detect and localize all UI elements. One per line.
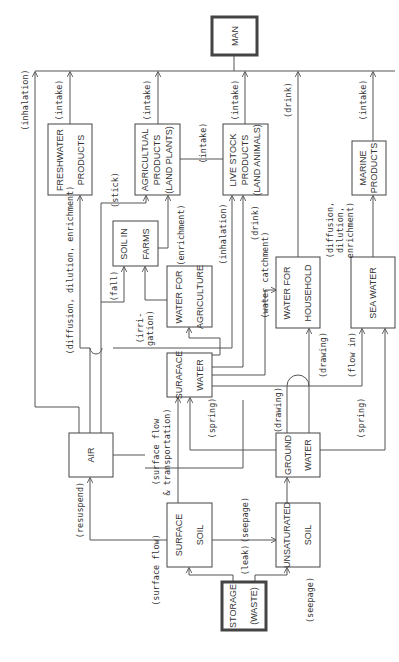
node-label: PRODUCTS xyxy=(240,135,250,186)
edge-label: (water catchment) xyxy=(260,232,270,319)
edge-label: gation) xyxy=(145,310,155,346)
node-ground-water: GROUND WATER xyxy=(276,433,320,477)
node-label: UNSATURATED xyxy=(282,501,292,568)
edge-label: (intake) xyxy=(54,80,64,121)
node-storage-waste: STORAGE (WASTE) xyxy=(222,582,266,630)
edge-label: (enrichment) xyxy=(176,204,186,265)
node-live-stock-products: LIVE STOCK PRODUCTS (LAND ANIMALS) xyxy=(223,124,268,196)
edge-label: (flow in) xyxy=(347,332,357,378)
node-label: MARINE xyxy=(358,150,368,185)
node-man: MAN xyxy=(212,17,257,55)
node-label: SOIL xyxy=(303,525,313,546)
edge-ground-spring-surface xyxy=(190,398,276,450)
edge-label: (drawing) xyxy=(273,387,283,433)
edge-label: (seepage) xyxy=(305,577,315,623)
node-label: HOUSEHOLD xyxy=(303,264,313,322)
node-water-for-household: WATER FOR HOUSEHOLD xyxy=(276,257,320,328)
node-label: AGRICULTUAL xyxy=(140,129,150,191)
edge-label: (surface flow) xyxy=(151,534,161,606)
edge-label: (spring) xyxy=(356,398,366,439)
node-label: PRODUCTS xyxy=(76,135,86,186)
node-label: STORAGE xyxy=(228,584,238,628)
node-air: AIR xyxy=(69,433,113,477)
node-label: (LAND ANIMALS) xyxy=(252,124,262,196)
node-label: LIVE STOCK xyxy=(228,134,238,187)
node-freshwater-products: FRESHWATER PRODUCTS xyxy=(48,124,92,195)
node-label: SURFACE xyxy=(174,514,184,557)
node-label: GROUND xyxy=(283,435,293,475)
node-soil-in-farms: SOIL IN FARMS xyxy=(113,221,158,266)
edge-surface-to-agri-water xyxy=(189,328,220,355)
edge-resuspend xyxy=(90,478,167,540)
edge-irrigation xyxy=(145,267,167,300)
node-label: WATER FOR xyxy=(174,270,184,323)
node-label: (WASTE) xyxy=(249,587,259,625)
edge-label: (intake) xyxy=(142,80,152,121)
node-surface-water: SURAFACE WATER xyxy=(167,351,212,400)
node-water-for-agriculture: WATER FOR AGRICULTURE xyxy=(167,265,212,329)
edge-air-diffusion-freshwater xyxy=(80,196,90,433)
edge-label: & transportation) xyxy=(162,409,172,496)
node-marine-products: MARINE PRODUCTS xyxy=(352,141,386,195)
edge-flow-in xyxy=(212,329,362,386)
edge-label: (surface flow xyxy=(151,418,161,485)
node-agricultural-products: AGRICULTUAL PRODUCTS (LAND PLANTS) xyxy=(135,124,180,195)
edge-storage-seepage xyxy=(255,568,287,582)
edge-label: (drink) xyxy=(283,82,293,118)
node-label: FRESHWATER xyxy=(55,129,65,191)
node-label: PRODUCTS xyxy=(369,143,379,194)
edge-label: (resuspend) xyxy=(75,482,85,538)
edge-label: enrichment) xyxy=(345,202,355,258)
node-label: WATER xyxy=(195,359,205,391)
node-unsaturated-soil: UNSATURATED SOIL xyxy=(276,501,320,568)
edge-label: (drink) xyxy=(250,205,260,241)
node-label: SOIL IN xyxy=(119,228,129,260)
node-label: SOIL xyxy=(195,525,205,546)
edge-label: (inhalation) xyxy=(20,69,30,130)
crossing-hop xyxy=(90,348,102,354)
node-label: SURAFACE xyxy=(174,351,184,400)
edge-label: (intake) xyxy=(230,80,240,121)
node-sea-water: SEA WATER xyxy=(351,257,395,328)
edge-label: dilution, xyxy=(335,207,345,253)
edge-label: (intake) xyxy=(358,80,368,121)
edge-soil-enrichment-agricultural xyxy=(158,196,168,248)
edge-storage-leak xyxy=(189,568,233,582)
node-label: SEA WATER xyxy=(368,267,378,319)
edge-label: (intake) xyxy=(198,123,208,164)
node-label: AGRICULTURE xyxy=(195,265,205,329)
node-label: AIR xyxy=(86,447,96,463)
edge-label: (diffusion, dilution, enrichment) xyxy=(65,186,75,355)
node-label: MAN xyxy=(230,26,240,46)
node-label: PRODUCTS xyxy=(152,135,162,186)
edge-label: (fall) xyxy=(109,271,119,302)
node-label: WATER FOR xyxy=(282,266,292,319)
edge-label: (diffusion, xyxy=(325,202,335,258)
crossing-hop xyxy=(287,375,309,386)
edge-label: (spring) xyxy=(207,398,217,439)
node-surface-soil: SURFACE SOIL xyxy=(167,503,212,567)
pollutant-pathway-diagram: MAN FRESHWATER PRODUCTS AGRICULTUAL PROD… xyxy=(0,0,399,662)
edge-label: (inhalation) xyxy=(218,203,228,264)
edge-label: (stick) xyxy=(110,172,120,208)
node-label: FARMS xyxy=(141,228,151,259)
node-label: WATER xyxy=(303,439,313,471)
edge-label: (seepage) xyxy=(240,497,250,543)
edge-label: (leak) xyxy=(240,545,250,576)
edge-label: (irri- xyxy=(135,313,145,344)
edge-label: (drawing) xyxy=(318,332,328,378)
node-label: (LAND PLANTS) xyxy=(164,126,174,194)
